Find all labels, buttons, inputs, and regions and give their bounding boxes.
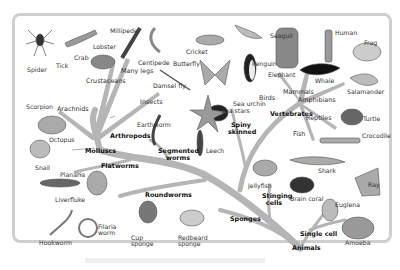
label-whale: Whale xyxy=(315,78,334,84)
label-roundworms: Roundworms xyxy=(145,192,192,199)
label-earthworm: Earthworm xyxy=(137,122,171,128)
label-sponges: Sponges xyxy=(230,216,261,223)
tree-branches xyxy=(0,0,400,270)
label-spider: Spider xyxy=(27,67,47,73)
label-spiny-skinned: Spiny skinned xyxy=(228,122,254,135)
label-hookworm: Hookworm xyxy=(39,240,72,246)
label-mammals: Mammals xyxy=(283,89,314,96)
label-snail: Snail xyxy=(35,165,50,171)
label-cricket: Cricket xyxy=(186,49,208,55)
label-leech: Leech xyxy=(206,148,224,154)
label-redbeard-sponge: Redbeard sponge xyxy=(178,235,212,247)
label-jellyfish: Jellyfish xyxy=(248,183,272,189)
label-human: Human xyxy=(335,30,357,36)
label-penguin: Penguin xyxy=(252,61,277,67)
label-tick: Tick xyxy=(56,63,68,69)
label-centipede: Centipede xyxy=(138,60,170,66)
label-arthropods: Arthropods xyxy=(110,133,151,140)
label-birds: Birds xyxy=(259,95,275,102)
label-amphibians: Amphibians xyxy=(298,97,336,104)
label-filaria-worm: Filaria worm xyxy=(98,224,126,236)
label-molluscs: Molluscs xyxy=(85,148,116,155)
label-turtle: Turtle xyxy=(363,116,380,122)
label-ray: Ray xyxy=(368,182,380,188)
label-millipede: Millipede xyxy=(110,28,138,34)
label-arachnids: Arachnids xyxy=(57,106,89,113)
label-crocodile: Crocodile xyxy=(362,133,391,139)
label-fish: Fish xyxy=(293,131,305,138)
label-animals-root: Animals xyxy=(292,245,321,252)
label-elephant: Elephant xyxy=(268,72,295,78)
label-brain-coral: Brain coral xyxy=(290,196,323,202)
label-insects: Insects xyxy=(140,99,163,106)
label-salamander: Salamander xyxy=(347,89,384,95)
label-flatworms: Flatworms xyxy=(101,163,139,170)
label-liverfluke: Liverfluke xyxy=(55,197,85,203)
label-seagull: Seagull xyxy=(270,33,293,39)
label-crustaceans: Crustaceans xyxy=(86,78,126,85)
caption-placeholder xyxy=(85,258,265,263)
label-segmented-worms: Segmented worms xyxy=(158,148,198,161)
label-single-cell: Single cell xyxy=(300,231,337,238)
label-many-legs: Many legs xyxy=(121,68,153,75)
label-stinging-cells: Stinging cells xyxy=(262,193,286,206)
label-planaria: Planaria xyxy=(60,172,85,178)
label-scorpion: Scorpion xyxy=(26,104,53,110)
label-reptiles: Reptiles xyxy=(306,115,331,122)
label-shark: Shark xyxy=(318,168,336,174)
label-euglena: Euglena xyxy=(335,202,360,208)
label-lobster: Lobster xyxy=(93,44,116,50)
label-butterfly: Butterfly xyxy=(173,61,200,67)
label-damsel-fly: Damsel fly xyxy=(153,83,186,89)
label-frog: Frog xyxy=(364,40,377,46)
label-sea-stars: Sea stars xyxy=(221,108,250,114)
label-octopus: Octopus xyxy=(49,137,75,143)
label-amoeba: Amoeba xyxy=(345,240,371,246)
label-cup-sponge: Cup sponge xyxy=(131,235,157,247)
label-crab: Crab xyxy=(74,55,89,61)
